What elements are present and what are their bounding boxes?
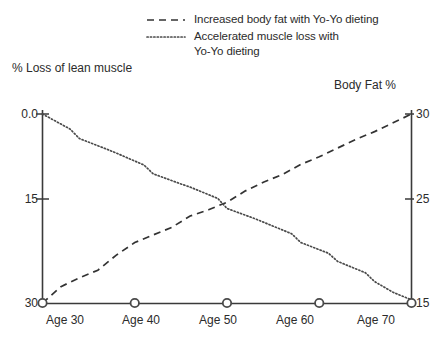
series-layer <box>43 114 412 303</box>
x-axis-marker <box>315 299 323 307</box>
x-axis-marker <box>131 299 139 307</box>
chart-container: Increased body fat with Yo-Yo dieting Ac… <box>0 0 435 348</box>
plot-area <box>0 0 435 348</box>
x-axis-marker <box>38 299 46 307</box>
x-axis-marker <box>223 299 231 307</box>
series-line-muscle-loss <box>43 114 412 300</box>
x-axis-marker <box>407 299 415 307</box>
